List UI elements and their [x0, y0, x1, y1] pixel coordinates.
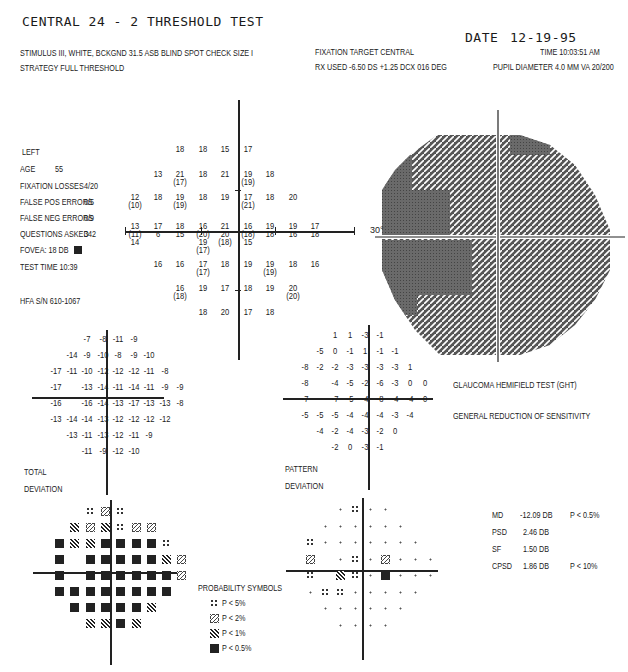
td-probability-symbol-icon — [116, 539, 125, 548]
total-deviation-value: -12 — [157, 415, 173, 423]
pd-probability-symbol-icon — [366, 621, 375, 630]
pd-probability-symbol-icon — [411, 588, 420, 597]
td-probability-symbol-icon — [70, 523, 79, 532]
pd-probability-symbol-icon — [366, 505, 375, 514]
td-probability-symbol-icon — [86, 587, 95, 596]
td-probability-symbol-icon — [116, 507, 125, 516]
pd-probability-symbol-icon — [336, 538, 345, 547]
total-deviation-value: -13 — [157, 399, 173, 407]
pdp-vertical-axis — [362, 498, 364, 660]
pattern-deviation-value: -1 — [342, 347, 358, 355]
pd-probability-symbol-icon — [336, 604, 345, 613]
pd-probability-symbol-icon — [396, 604, 405, 613]
threshold-value: 1918 — [262, 222, 278, 238]
td-probability-symbol-icon — [147, 555, 156, 564]
total-deviation-value: -12 — [141, 415, 157, 423]
pattern-deviation-value: -2 — [327, 443, 343, 451]
pattern-deviation-value: -4 — [357, 395, 373, 403]
cpsd-label: CPSD — [492, 561, 512, 571]
legend-p2: P < 2% — [222, 613, 245, 623]
tdp-vertical-axis — [110, 500, 112, 665]
pd-probability-symbol-icon — [381, 555, 390, 564]
td-probability-symbol-icon — [70, 587, 79, 596]
ght-label: GLAUCOMA HEMIFIELD TEST (GHT) — [453, 380, 577, 390]
pattern-deviation-value: -4 — [402, 411, 418, 419]
pd-probability-symbol-icon — [396, 571, 405, 580]
total-deviation-value: -12 — [126, 367, 142, 375]
td-probability-symbol-icon — [162, 555, 171, 564]
pattern-deviation-value: -2 — [312, 363, 328, 371]
threshold-value: 18 — [172, 145, 188, 153]
total-deviation-value: -17 — [126, 399, 142, 407]
pattern-deviation-value: -3 — [387, 363, 403, 371]
total-deviation-label-2: DEVIATION — [24, 484, 62, 494]
pd-probability-symbol-icon — [396, 522, 405, 531]
threshold-value: 176 — [150, 222, 166, 238]
fovea-square-icon — [74, 246, 82, 254]
td-probability-symbol-icon — [86, 619, 95, 628]
fixation-losses-value: 4/20 — [84, 181, 98, 191]
threshold-value: 18 — [217, 260, 233, 268]
total-deviation-value: -8 — [95, 335, 111, 343]
axis-tick — [125, 227, 126, 235]
total-deviation-value: -11 — [79, 447, 95, 455]
pattern-deviation-value: -5 — [312, 347, 328, 355]
td-probability-symbol-icon — [132, 539, 141, 548]
td-probability-symbol-icon — [132, 523, 141, 532]
td-probability-symbol-icon — [86, 507, 95, 516]
pd-probability-symbol-icon — [306, 588, 315, 597]
total-deviation-value: -11 — [110, 335, 126, 343]
md-value: -12.09 DB — [520, 510, 553, 520]
total-deviation-value: -16 — [48, 399, 64, 407]
total-deviation-value: -10 — [95, 351, 111, 359]
threshold-value: 18 — [262, 170, 278, 178]
td-probability-symbol-icon — [162, 571, 171, 580]
threshold-value: 18 — [240, 284, 256, 292]
threshold-value: 13 — [150, 170, 166, 178]
pd-probability-symbol-icon — [411, 538, 420, 547]
total-deviation-value: -11 — [141, 367, 157, 375]
questions-asked-label: QUESTIONS ASKED — [20, 229, 89, 239]
pattern-deviation-value: 0 — [387, 427, 403, 435]
total-deviation-value: -16 — [79, 399, 95, 407]
pattern-deviation-value: -4 — [372, 411, 388, 419]
pd-probability-symbol-icon — [336, 571, 345, 580]
pattern-deviation-value: -3 — [372, 363, 388, 371]
questions-asked-value: 342 — [84, 229, 96, 239]
pattern-deviation-value: -4 — [327, 379, 343, 387]
false-neg-value: 0/9 — [84, 213, 94, 223]
pattern-deviation-value: -4 — [357, 411, 373, 419]
pd-probability-symbol-icon — [426, 571, 435, 580]
td-probability-symbol-icon — [55, 555, 64, 564]
threshold-value: 21(17) — [172, 170, 188, 186]
threshold-value: 18 — [150, 193, 166, 201]
total-deviation-value: -13 — [95, 415, 111, 423]
age-value: 55 — [55, 164, 63, 174]
pattern-deviation-value: 0 — [417, 379, 433, 387]
pd-probability-symbol-icon — [411, 555, 420, 564]
total-deviation-value: -8 — [172, 399, 188, 407]
td-probability-symbol-icon — [86, 603, 95, 612]
pd-probability-symbol-icon — [396, 588, 405, 597]
total-deviation-value: -7 — [79, 335, 95, 343]
pattern-deviation-value: -5 — [342, 379, 358, 387]
pattern-deviation-value: 0 — [327, 347, 343, 355]
pattern-deviation-value: -7 — [327, 395, 343, 403]
td-probability-symbol-icon — [177, 555, 186, 564]
total-deviation-value: -10 — [141, 351, 157, 359]
stimulus-info: STIMULUS III, WHITE, BCKGND 31.5 ASB BLI… — [20, 48, 253, 58]
td-probability-symbol-icon — [116, 571, 125, 580]
td-probability-symbol-icon — [101, 587, 110, 596]
pattern-deviation-value: 1 — [357, 347, 373, 355]
pattern-deviation-value: -4 — [402, 395, 418, 403]
p2-symbol-icon — [210, 614, 219, 623]
pattern-deviation-value: -8 — [297, 363, 313, 371]
td-probability-symbol-icon — [116, 555, 125, 564]
psd-value: 2.46 DB — [523, 527, 549, 537]
total-deviation-value: -10 — [79, 367, 95, 375]
threshold-value: 1815 — [172, 222, 188, 238]
total-deviation-value: -13 — [48, 415, 64, 423]
eye-label: LEFT — [22, 147, 40, 157]
axis-tick — [235, 190, 241, 191]
cpsd-value: 1.86 DB — [523, 561, 549, 571]
